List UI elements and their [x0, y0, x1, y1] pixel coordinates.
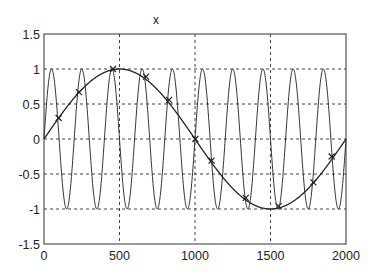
x-tick-label: 500 [109, 249, 130, 263]
y-axis-ticks: 1.510.50-0.5-1-1.5 [18, 28, 40, 252]
y-tick-label: 0 [33, 133, 40, 147]
y-tick-label: 1 [33, 63, 40, 77]
y-tick-label: 1.5 [23, 28, 40, 42]
y-tick-label: -1.5 [18, 238, 40, 252]
line-chart: 0500100015002000 1.510.50-0.5-1-1.5 x [0, 0, 380, 277]
x-marker [310, 179, 316, 185]
x-axis-ticks: 0500100015002000 [41, 249, 360, 263]
y-tick-label: 0.5 [23, 98, 40, 112]
x-tick-label: 1500 [257, 249, 285, 263]
x-tick-label: 1000 [181, 249, 209, 263]
x-marker [56, 115, 62, 121]
x-marker [76, 89, 82, 95]
y-tick-label: -0.5 [18, 168, 40, 182]
chart-title: x [153, 13, 159, 27]
y-tick-label: -1 [29, 203, 40, 217]
x-tick-label: 0 [41, 249, 48, 263]
x-tick-label: 2000 [332, 249, 360, 263]
figure: 0500100015002000 1.510.50-0.5-1-1.5 x [0, 0, 380, 277]
